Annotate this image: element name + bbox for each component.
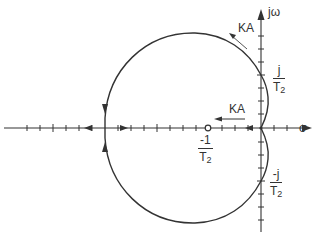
origin-point bbox=[259, 126, 262, 129]
root-locus-plot bbox=[0, 0, 317, 240]
gain-arrow-upper bbox=[229, 33, 247, 49]
gain-arrow-real bbox=[214, 117, 245, 122]
imag-crossing-lower-label: -j T2 bbox=[270, 168, 282, 201]
imag-axis-label: jω bbox=[268, 6, 280, 18]
root-locus-branch-lower bbox=[105, 128, 268, 223]
real-axis bbox=[4, 124, 312, 132]
imag-crossing-upper-label: j T2 bbox=[273, 64, 285, 97]
gain-label-real: KA bbox=[229, 103, 245, 115]
zero-marker bbox=[205, 125, 211, 131]
zero-label: -1 T2 bbox=[198, 134, 213, 167]
real-axis-label: σ bbox=[299, 122, 306, 134]
gain-label-upper: KA bbox=[238, 22, 254, 34]
